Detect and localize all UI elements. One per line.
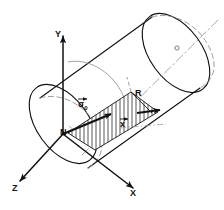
z-axis-line [20, 134, 63, 181]
cylinder-axis-center-point [175, 46, 179, 50]
cylinder-far-face [129, 1, 224, 104]
axis-label-y: Y [55, 30, 61, 39]
xbar-label: x [120, 120, 125, 129]
stress-vector-label-sigma-zero: σ0 [78, 100, 88, 111]
cylinder-coordinate-figure: Y X Z N R σ0 x [0, 0, 224, 210]
origin-label-n: N [60, 128, 67, 137]
axis-label-x: X [130, 189, 136, 198]
sigma-subscript: 0 [84, 105, 87, 111]
figure-canvas [0, 0, 224, 210]
cylinder-body [40, 17, 200, 168]
axis-label-z: Z [12, 184, 18, 193]
radius-label-r: R [135, 89, 142, 98]
